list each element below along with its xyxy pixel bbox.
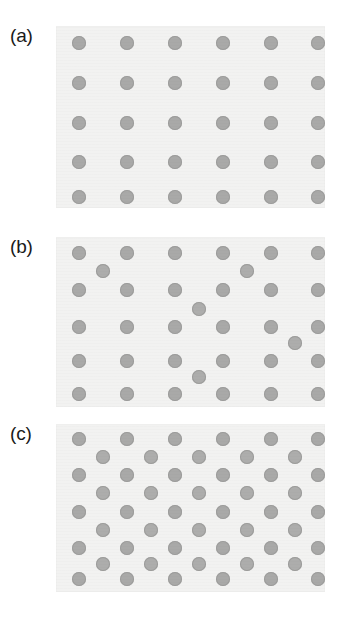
lattice-dot bbox=[120, 76, 134, 90]
lattice-dot bbox=[264, 541, 278, 555]
lattice-dot bbox=[216, 155, 230, 169]
lattice-dot bbox=[120, 116, 134, 130]
figure-container: (a) (b) (c) bbox=[0, 0, 339, 627]
lattice-dot bbox=[168, 468, 182, 482]
lattice-dot bbox=[216, 190, 230, 204]
lattice-dot bbox=[311, 541, 325, 555]
lattice-dot bbox=[72, 468, 86, 482]
lattice-dot bbox=[264, 36, 278, 50]
lattice-dot bbox=[264, 505, 278, 519]
lattice-dot bbox=[120, 283, 134, 297]
lattice-dot bbox=[72, 354, 86, 368]
panel-c-canvas bbox=[56, 424, 325, 592]
lattice-dot bbox=[72, 76, 86, 90]
lattice-dot bbox=[264, 76, 278, 90]
lattice-dot bbox=[216, 541, 230, 555]
lattice-dot bbox=[192, 450, 206, 464]
lattice-dot bbox=[264, 387, 278, 401]
lattice-dot bbox=[120, 354, 134, 368]
lattice-dot bbox=[288, 486, 302, 500]
lattice-dot bbox=[120, 505, 134, 519]
lattice-dot bbox=[216, 283, 230, 297]
lattice-dot bbox=[264, 320, 278, 334]
lattice-dot bbox=[264, 432, 278, 446]
lattice-dot bbox=[216, 387, 230, 401]
lattice-dot bbox=[216, 432, 230, 446]
lattice-dot bbox=[168, 246, 182, 260]
lattice-dot bbox=[216, 320, 230, 334]
lattice-dot bbox=[192, 370, 206, 384]
lattice-dot bbox=[72, 387, 86, 401]
lattice-dot bbox=[168, 116, 182, 130]
panel-a-canvas bbox=[56, 26, 325, 208]
panel-a-label: (a) bbox=[10, 26, 33, 45]
lattice-dot bbox=[168, 541, 182, 555]
lattice-dot bbox=[264, 283, 278, 297]
lattice-dot bbox=[120, 190, 134, 204]
lattice-dot bbox=[311, 432, 325, 446]
lattice-dot bbox=[311, 354, 325, 368]
lattice-dot bbox=[311, 116, 325, 130]
lattice-dot bbox=[168, 320, 182, 334]
lattice-dot bbox=[288, 523, 302, 537]
lattice-dot bbox=[264, 116, 278, 130]
lattice-dot bbox=[216, 36, 230, 50]
lattice-dot bbox=[120, 572, 134, 586]
lattice-dot bbox=[120, 320, 134, 334]
lattice-dot bbox=[72, 505, 86, 519]
lattice-dot bbox=[311, 190, 325, 204]
lattice-dot bbox=[120, 246, 134, 260]
lattice-dot bbox=[311, 283, 325, 297]
lattice-dot bbox=[72, 283, 86, 297]
lattice-dot bbox=[168, 572, 182, 586]
lattice-dot bbox=[311, 572, 325, 586]
lattice-dot bbox=[168, 36, 182, 50]
lattice-dot bbox=[264, 572, 278, 586]
lattice-dot bbox=[240, 557, 254, 571]
lattice-dot bbox=[72, 190, 86, 204]
lattice-dot bbox=[120, 541, 134, 555]
panel-c: (c) bbox=[0, 424, 339, 592]
lattice-dot bbox=[192, 523, 206, 537]
lattice-dot bbox=[168, 354, 182, 368]
lattice-dot bbox=[240, 523, 254, 537]
lattice-dot bbox=[96, 523, 110, 537]
lattice-dot bbox=[311, 468, 325, 482]
lattice-dot bbox=[120, 468, 134, 482]
lattice-dot bbox=[216, 354, 230, 368]
panel-c-label: (c) bbox=[10, 424, 32, 443]
lattice-dot bbox=[192, 486, 206, 500]
lattice-dot bbox=[216, 246, 230, 260]
lattice-dot bbox=[120, 155, 134, 169]
lattice-dot bbox=[96, 264, 110, 278]
lattice-dot bbox=[168, 432, 182, 446]
lattice-dot bbox=[264, 246, 278, 260]
lattice-dot bbox=[72, 320, 86, 334]
lattice-dot bbox=[216, 505, 230, 519]
lattice-dot bbox=[240, 264, 254, 278]
lattice-dot bbox=[72, 155, 86, 169]
lattice-dot bbox=[240, 450, 254, 464]
lattice-dot bbox=[72, 572, 86, 586]
lattice-dot bbox=[144, 523, 158, 537]
lattice-dot bbox=[96, 557, 110, 571]
lattice-dot bbox=[168, 155, 182, 169]
lattice-dot bbox=[216, 468, 230, 482]
lattice-dot bbox=[311, 320, 325, 334]
lattice-dot bbox=[288, 557, 302, 571]
lattice-dot bbox=[216, 572, 230, 586]
lattice-dot bbox=[72, 116, 86, 130]
lattice-dot bbox=[96, 486, 110, 500]
lattice-dot bbox=[192, 302, 206, 316]
lattice-dot bbox=[72, 246, 86, 260]
lattice-dot bbox=[168, 505, 182, 519]
lattice-dot bbox=[144, 557, 158, 571]
lattice-dot bbox=[120, 387, 134, 401]
lattice-dot bbox=[216, 116, 230, 130]
lattice-dot bbox=[168, 76, 182, 90]
panel-b-label: (b) bbox=[10, 237, 33, 256]
lattice-dot bbox=[288, 450, 302, 464]
lattice-dot bbox=[264, 354, 278, 368]
lattice-dot bbox=[120, 432, 134, 446]
lattice-dot bbox=[120, 36, 134, 50]
